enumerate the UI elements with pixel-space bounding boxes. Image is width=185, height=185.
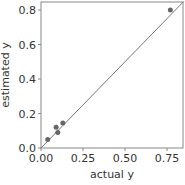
- data-point: [55, 130, 60, 135]
- data-points: [45, 8, 173, 142]
- x-tick-label: 0.25: [71, 152, 96, 165]
- x-axis-label: actual y: [90, 168, 134, 181]
- y-tick-label: 0.4: [19, 73, 37, 86]
- data-point: [45, 137, 50, 142]
- data-point: [168, 8, 173, 13]
- scatter-chart: 0.00.20.40.60.8 0.000.250.500.75 actual …: [0, 0, 185, 185]
- data-point: [54, 125, 59, 130]
- y-tick-label: 0.6: [19, 39, 37, 52]
- y-tick-label: 0.8: [19, 4, 37, 17]
- x-tick-label: 0.50: [113, 152, 138, 165]
- identity-line: [41, 1, 184, 148]
- y-axis-label: estimated y: [0, 42, 12, 108]
- x-tick-label: 0.00: [29, 152, 54, 165]
- y-tick-label: 0.2: [19, 108, 37, 121]
- data-point: [60, 120, 65, 125]
- y-axis: 0.00.20.40.60.8: [19, 4, 42, 155]
- x-axis: 0.000.250.500.75: [29, 148, 180, 165]
- x-tick-label: 0.75: [155, 152, 180, 165]
